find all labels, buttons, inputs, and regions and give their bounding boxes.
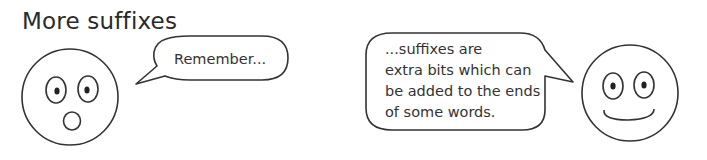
illustration	[0, 0, 707, 160]
left-speech-text: Remember...	[174, 49, 266, 70]
smiling-face-icon	[582, 45, 678, 141]
speech-line: of some words.	[385, 102, 555, 123]
surprised-face-icon	[22, 49, 118, 145]
speech-line: be added to the ends	[385, 81, 555, 102]
speech-line: ...suffixes are	[385, 39, 555, 60]
speech-line: extra bits which can	[385, 60, 555, 81]
right-speech-text: ...suffixes are extra bits which can be …	[385, 39, 555, 123]
